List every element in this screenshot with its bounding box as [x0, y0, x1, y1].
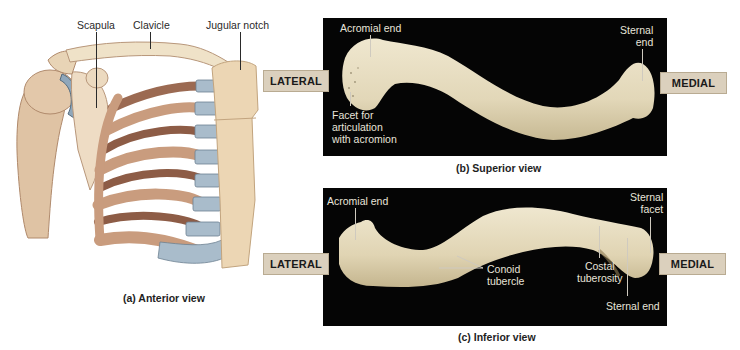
- medial-label-c: MEDIAL: [659, 253, 726, 275]
- sternal-facet-line2: facet: [641, 203, 664, 215]
- costal-line1: Costal: [585, 260, 615, 272]
- panel-a-anterior-view: Scapula Clavicle Jugular notch (a) Anter…: [0, 0, 260, 320]
- label-acromial-end-b: Acromial end: [340, 22, 401, 34]
- leader-sternal-end-c: [627, 238, 628, 296]
- leader-acromial-end-c: [355, 208, 356, 240]
- label-conoid-tubercle: Conoid tubercle: [487, 263, 524, 287]
- label-jugular-notch: Jugular notch: [206, 19, 269, 31]
- label-sternal-end-c: Sternal end: [606, 300, 660, 312]
- leader-clavicle: [150, 32, 151, 49]
- facet-line1: Facet for: [332, 109, 373, 121]
- shoulder-girdle-illustration: [0, 0, 260, 300]
- caption-anterior-view: (a) Anterior view: [123, 292, 205, 304]
- leader-sternal-end-b: [642, 49, 643, 81]
- conoid-line2: tubercle: [487, 275, 524, 287]
- label-clavicle: Clavicle: [133, 19, 170, 31]
- conoid-line1: Conoid: [487, 263, 520, 275]
- leader-facet-b: [350, 92, 351, 106]
- leader-acromial-end-b: [370, 35, 371, 57]
- caption-inferior-view: (c) Inferior view: [458, 331, 536, 343]
- label-sternal-end-b: Sternal end: [620, 24, 653, 48]
- panel-b-superior-photo: Acromial end Sternal end Facet for artic…: [323, 18, 667, 156]
- label-facet-articulation: Facet for articulation with acromion: [332, 109, 397, 145]
- facet-line2: articulation: [332, 121, 383, 133]
- sternal-facet-line1: Sternal: [630, 191, 663, 203]
- sternal-end-b-line1: Sternal: [620, 24, 653, 36]
- facet-line3: with acromion: [332, 133, 397, 145]
- lateral-label-b: LATERAL: [263, 70, 329, 92]
- leader-sternal-facet: [650, 217, 651, 253]
- label-sternal-facet: Sternal facet: [630, 191, 663, 215]
- leader-costal-tuberosity: [599, 226, 600, 258]
- costal-line2: tuberosity: [577, 272, 623, 284]
- label-scapula: Scapula: [77, 19, 115, 31]
- leader-jugular-notch: [240, 32, 241, 70]
- caption-superior-view: (b) Superior view: [456, 162, 541, 174]
- sternal-end-b-line2: end: [636, 36, 654, 48]
- label-costal-tuberosity: Costal tuberosity: [577, 260, 623, 284]
- lateral-label-c: LATERAL: [263, 253, 329, 275]
- panel-c-inferior-photo: Acromial end Conoid tubercle Costal tube…: [323, 188, 667, 326]
- label-acromial-end-c: Acromial end: [327, 195, 388, 207]
- medial-label-b: MEDIAL: [660, 72, 727, 94]
- leader-scapula: [96, 32, 97, 108]
